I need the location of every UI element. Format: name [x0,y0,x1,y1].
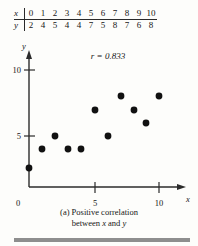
y-tick-label-5: 5 [17,131,21,141]
table-cell-x-8: 8 [121,8,133,20]
table-cell-x-7: 7 [109,8,121,20]
data-point [105,133,112,140]
x-axis-arrow-icon [177,184,186,190]
table-cell-x-0: 0 [25,8,38,20]
page-divider-rule [14,238,190,242]
data-point [131,107,138,114]
table-cell-y-8: 7 [121,20,133,32]
caption-variable-y: y [122,218,126,228]
table-cell-y-2: 5 [49,20,61,32]
table-row-label-y: y [14,20,25,32]
table-cell-y-4: 4 [73,20,85,32]
data-point [39,146,46,153]
table-cell-x-1: 1 [37,8,49,20]
table-cell-y-7: 8 [109,20,121,32]
data-point [78,146,85,153]
table-cell-y-0: 2 [25,20,38,32]
data-point [118,93,125,100]
y-axis-arrow-icon [26,50,32,59]
table-cell-x-10: 10 [145,8,157,20]
table-cell-y-6: 5 [97,20,109,32]
table-cell-y-3: 4 [61,20,73,32]
table-cell-y-9: 6 [133,20,145,32]
table-cell-x-5: 5 [85,8,97,20]
y-axis-label: y [21,41,26,51]
y-tick-label-10: 10 [13,65,22,75]
caption-line-2: between x and y [0,218,198,229]
table-cell-y-5: 7 [85,20,97,32]
caption-line-2-prefix: between [72,218,102,228]
scatter-plot-svg: 5 10 5 10 0 y x r = 0.833 [0,36,198,208]
scatter-plot: 5 10 5 10 0 y x r = 0.833 [0,36,198,208]
caption-line-1: (a) Positive correlation [0,207,198,218]
data-point [26,165,33,172]
table-cell-x-2: 2 [49,8,61,20]
data-point [156,93,163,100]
data-table: x 0 1 2 3 4 5 6 7 8 9 10 y 2 4 5 4 4 7 5… [14,8,157,31]
correlation-label: r = 0.833 [91,51,126,61]
table-cell-x-6: 6 [97,8,109,20]
table-row-y: y 2 4 5 4 4 7 5 8 7 6 8 [14,20,157,32]
table-cell-x-4: 4 [73,8,85,20]
table-row-label-x: x [14,8,25,20]
data-points [26,93,163,172]
data-point [52,133,59,140]
data-point [143,120,150,127]
x-axis-label: x [185,194,190,204]
data-point [92,107,99,114]
data-table-body: x 0 1 2 3 4 5 6 7 8 9 10 y 2 4 5 4 4 7 5… [14,8,157,31]
table-cell-y-10: 8 [145,20,157,32]
table-cell-y-1: 4 [37,20,49,32]
table-cell-x-9: 9 [133,8,145,20]
data-point [65,146,72,153]
table-cell-x-3: 3 [61,8,73,20]
caption-line-2-mid: and [106,218,123,228]
figure-caption: (a) Positive correlation between x and y [0,207,198,229]
x-axis [29,184,186,190]
table-row-x: x 0 1 2 3 4 5 6 7 8 9 10 [14,8,157,20]
